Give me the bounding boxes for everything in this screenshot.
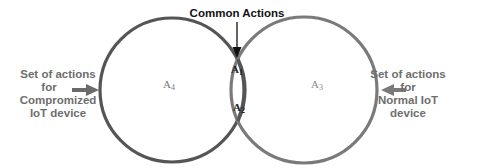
common-actions-label: Common Actions: [187, 7, 287, 19]
description-line: for: [352, 81, 464, 94]
normal-set-description: Set of actions for Normal IoT device: [352, 68, 464, 120]
region-label-a2: A2: [233, 101, 245, 115]
description-line: IoT device: [4, 107, 112, 120]
description-line: Set of actions: [352, 68, 464, 81]
compromized-set-description: Set of actions for Compromized IoT devic…: [4, 68, 112, 120]
region-label-a4: A4: [163, 78, 175, 92]
region-label-a1: A1: [231, 63, 243, 77]
description-line: for: [0, 81, 112, 94]
description-line: Normal IoT: [352, 94, 464, 107]
description-line: Compromized: [4, 94, 112, 107]
description-line: device: [352, 107, 464, 120]
description-line: Set of actions: [4, 68, 112, 81]
region-label-a3: A3: [311, 78, 323, 92]
